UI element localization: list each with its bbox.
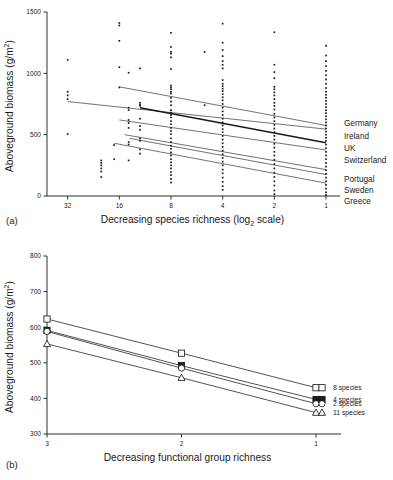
data-point (325, 109, 327, 111)
data-point (325, 158, 327, 160)
data-point (128, 144, 130, 146)
data-point (325, 45, 327, 47)
legend-marker-2-species (319, 401, 325, 407)
data-point (222, 96, 224, 98)
data-point (170, 32, 172, 34)
data-point (222, 150, 224, 152)
panel-a-x-ticklabel: 16 (116, 202, 124, 209)
panel-a-x-ticklabel: 8 (169, 202, 173, 209)
panel-b-y-ticklabel: 300 (30, 430, 41, 437)
data-point (170, 130, 172, 132)
data-point (222, 55, 224, 57)
panel-b-label: (b) (6, 459, 18, 470)
panel-a-scatter-points (67, 22, 327, 196)
data-point (325, 91, 327, 93)
data-point (100, 171, 102, 173)
panel-a-label: (a) (6, 215, 18, 226)
panel-b-y-ticklabel: 400 (30, 395, 41, 402)
data-point (325, 97, 327, 99)
data-point (170, 87, 172, 89)
data-point (170, 85, 172, 87)
data-point (222, 60, 224, 62)
data-point (222, 153, 224, 155)
data-point (170, 53, 172, 55)
data-point (222, 93, 224, 95)
data-point (273, 31, 275, 33)
data-point (170, 117, 172, 119)
data-point (273, 135, 275, 137)
data-point (273, 190, 275, 192)
data-point (113, 158, 115, 160)
data-point (325, 103, 327, 105)
data-point (222, 103, 224, 105)
data-point (325, 65, 327, 67)
data-point (325, 191, 327, 193)
data-point (170, 148, 172, 150)
data-point (273, 91, 275, 93)
data-point (170, 123, 172, 125)
data-point (325, 100, 327, 102)
data-point (222, 172, 224, 174)
panel-a-legend-switzerland: Switzerland (344, 156, 387, 165)
panel-b-y-axis-title: Aboveground biomass (g/m2) (3, 281, 15, 413)
panel-a-y-ticklabel: 0 (37, 192, 41, 199)
data-point (222, 42, 224, 44)
data-point (222, 23, 224, 25)
data-point (222, 169, 224, 171)
data-point (139, 153, 141, 155)
data-point (170, 174, 172, 176)
marker-8-species (44, 316, 50, 322)
regression-line-germany (119, 87, 326, 126)
panel-a-y-axis-title: Aboveground biomass (g/m2) (3, 40, 15, 172)
data-point (325, 144, 327, 146)
panel-a-scatter: 05001000150032168421GermanyIrelandUKSwit… (0, 0, 393, 238)
data-point (273, 95, 275, 97)
data-point (170, 171, 172, 173)
data-point (273, 155, 275, 157)
data-point (222, 114, 224, 116)
data-point (170, 114, 172, 116)
panel-b-y-axis-title-tail: ) (4, 281, 15, 284)
panel-a-y-ticklabel: 500 (30, 131, 41, 138)
regression-line-uk (140, 108, 326, 143)
data-point (170, 97, 172, 99)
legend-marker-11-species (319, 409, 326, 415)
data-point (170, 46, 172, 48)
data-point (222, 90, 224, 92)
data-point (222, 164, 224, 166)
data-point (222, 107, 224, 109)
data-point (170, 158, 172, 160)
data-point (273, 117, 275, 119)
panel-a-x-ticklabel: 1 (324, 202, 328, 209)
data-point (128, 160, 130, 162)
regression-line-ireland (68, 102, 326, 130)
data-point (128, 109, 130, 111)
panel-b-y-ticklabel: 800 (30, 252, 41, 259)
data-point (170, 101, 172, 103)
data-point (222, 177, 224, 179)
data-point (170, 182, 172, 184)
panel-b-line: 3004005006007008003218 species4 species2… (0, 238, 393, 480)
data-point (325, 115, 327, 117)
data-point (273, 168, 275, 170)
data-point (273, 147, 275, 149)
data-point (325, 83, 327, 85)
panel-b-x-axis-title: Decreasing functional group richness (104, 452, 272, 463)
data-point (222, 111, 224, 113)
data-point (325, 122, 327, 124)
data-point (170, 178, 172, 180)
data-point (273, 64, 275, 66)
data-point (273, 88, 275, 90)
data-point (170, 104, 172, 106)
data-point (170, 137, 172, 139)
data-point (118, 40, 120, 42)
data-point (118, 25, 120, 27)
regression-line-sweden (130, 138, 326, 174)
data-point (325, 151, 327, 153)
data-point (325, 177, 327, 179)
data-point (273, 180, 275, 182)
panel-b-y-ticklabel: 500 (30, 359, 41, 366)
marker-8-species (178, 350, 184, 356)
data-point (325, 87, 327, 89)
regression-line-greece (114, 143, 326, 183)
